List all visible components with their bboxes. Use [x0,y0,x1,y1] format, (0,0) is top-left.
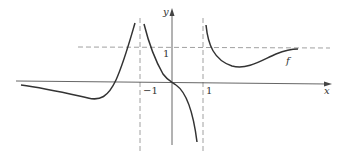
x-axis-label: x [324,85,330,96]
curve-left-branch [21,23,135,99]
tick-label-y-1: 1 [163,48,169,59]
tick-label-x-1: 1 [206,85,212,96]
horizontal-asymptote-y-1 [78,47,330,48]
curve-right-branch [206,25,298,67]
y-axis-label: y [162,6,169,17]
tick-label-x-neg-1: −1 [143,85,158,96]
y-axis-arrow-icon [170,8,175,16]
function-label-f: f [285,55,292,66]
function-graph: y x 1 −1 1 f [0,0,342,161]
